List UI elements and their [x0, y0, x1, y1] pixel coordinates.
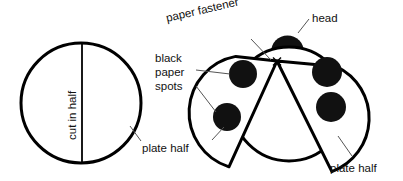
left-paper-plate-group: cut in half — [21, 43, 141, 163]
cut-in-half-label: cut in half — [66, 90, 78, 140]
black-paper-spot-right-lower — [316, 92, 346, 122]
ladybug-group — [181, 36, 381, 178]
black-paper-spot-left-upper — [229, 60, 257, 88]
black-paper-spots-label-line2: paper — [155, 66, 185, 78]
black-paper-spot-right-upper — [312, 57, 342, 87]
plate-half-label-left: plate half — [142, 142, 189, 154]
diagram-page: cut in half — [0, 0, 403, 181]
leader-head — [298, 19, 309, 33]
black-paper-spot-left-lower — [213, 103, 241, 131]
head-label: head — [312, 12, 338, 24]
paper-plate-circle — [21, 43, 141, 163]
craft-diagram: cut in half — [0, 0, 403, 181]
black-paper-spots-label-line1: black — [155, 52, 182, 64]
black-paper-spots-label-line3: spots — [155, 80, 183, 92]
paper-fastener-label: paper fastener — [165, 0, 240, 24]
plate-half-label-right: plate half — [330, 162, 377, 174]
